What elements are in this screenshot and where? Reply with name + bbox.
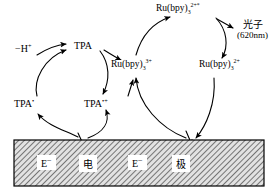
arrow-tpa-radical-to-tpa [36, 50, 66, 96]
label-tpa-radical-cation: TPA•+ [83, 99, 109, 109]
arrow-photon-emission [217, 19, 233, 28]
electrode-cell-ji: 极 [172, 155, 190, 172]
electrode-cell-electron-right: E− [128, 155, 147, 170]
arrow-electrode-to-tpa-radical-cation [88, 110, 107, 138]
arrow-electrode-to-ru3 [136, 78, 186, 138]
arrow-tpa-to-tpa-radical-cation [100, 51, 108, 94]
arrow-electrode-to-tpa-radical [38, 114, 78, 137]
electrode-cell-dian: 电 [79, 155, 97, 172]
label-deprotonation: −H+ [14, 44, 32, 54]
label-ru-bpy3-2plus-excited: Ru(bpy)32+* [155, 4, 201, 14]
electrode-cell-electron-left: E− [37, 155, 56, 170]
arrow-ru3-to-ru2-excited [136, 17, 170, 55]
ecl-mechanism-diagram: −H+ TPA TPA• TPA•+ Ru(bpy)33+ Ru(bpy)32+… [0, 0, 278, 195]
photon-wavelength: (620nm) [237, 31, 268, 40]
label-ru-bpy3-3plus: Ru(bpy)33+ [110, 60, 153, 70]
photon-text: 光子 [243, 19, 263, 30]
arrow-ru2-to-electrode [196, 78, 214, 138]
label-tpa-radical: TPA• [13, 99, 35, 109]
label-ru-bpy3-2plus: Ru(bpy)32+ [198, 60, 241, 70]
label-tpa: TPA [73, 41, 93, 51]
arrow-tpa-radical-cation-to-ru3 [128, 80, 133, 96]
label-photon: 光子 (620nm) [236, 20, 269, 40]
arrow-deprotonation-to-tpa [37, 44, 66, 55]
arrow-ru2-excited-to-ru2 [216, 18, 226, 58]
